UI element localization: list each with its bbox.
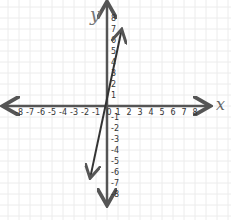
x-tick-label: -2 bbox=[81, 108, 89, 117]
y-tick-label: 1 bbox=[111, 91, 116, 100]
y-tick-label: 6 bbox=[111, 36, 116, 45]
y-tick-label: -3 bbox=[111, 135, 119, 144]
y-axis-label: y bbox=[90, 4, 100, 25]
y-tick-label: -6 bbox=[111, 168, 119, 177]
x-tick-label: -6 bbox=[37, 108, 45, 117]
coordinate-plane: -8-7-6-5-4-3-2-101234567887654321-1-2-3-… bbox=[0, 0, 231, 220]
x-tick-label: -4 bbox=[59, 108, 67, 117]
x-tick-label: 7 bbox=[181, 108, 186, 117]
x-axis-label: x bbox=[216, 95, 225, 114]
x-tick-label: -1 bbox=[92, 108, 100, 117]
y-tick-label: -2 bbox=[111, 124, 119, 133]
y-tick-label: 7 bbox=[111, 25, 116, 34]
y-tick-label: -5 bbox=[111, 157, 119, 166]
x-tick-label: -3 bbox=[70, 108, 78, 117]
x-tick-label: 6 bbox=[170, 108, 175, 117]
y-tick-label: -8 bbox=[111, 190, 119, 199]
x-tick-label: -7 bbox=[26, 108, 34, 117]
x-tick-label: 4 bbox=[148, 108, 153, 117]
y-tick-label: -1 bbox=[111, 113, 119, 122]
y-tick-label: 2 bbox=[111, 80, 116, 89]
x-tick-label: 8 bbox=[192, 108, 197, 117]
x-tick-label: -8 bbox=[15, 108, 23, 117]
y-tick-label: -4 bbox=[111, 146, 119, 155]
y-tick-label: -7 bbox=[111, 179, 119, 188]
x-tick-label: 5 bbox=[159, 108, 164, 117]
x-tick-label: 2 bbox=[126, 108, 131, 117]
y-tick-label: 8 bbox=[111, 14, 116, 23]
x-tick-label: -5 bbox=[48, 108, 56, 117]
x-tick-label: 3 bbox=[137, 108, 142, 117]
